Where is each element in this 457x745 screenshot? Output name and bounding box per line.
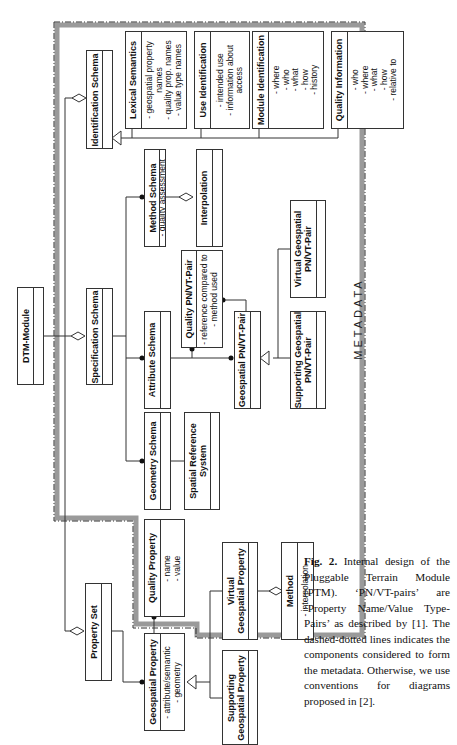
spatial-reference-system-label: Spatial Reference System xyxy=(188,423,208,499)
specification-schema-box: Specification Schema xyxy=(86,288,113,385)
quality-pnvt-pair-box: Quality PN/VT-Pair - reference compared … xyxy=(181,250,223,348)
identification-schema-label: Identification Schema xyxy=(90,53,100,146)
attribute-schema-box: Attribute Schema xyxy=(144,311,171,409)
supporting-geospatial-pnvt-pair-label: Supporting Geospatial PN/VT-Pair xyxy=(294,312,314,408)
method-schema-attrs: - quality assessment xyxy=(160,159,165,236)
metadata-label-text: METADATA xyxy=(352,278,364,359)
lexical-semantics-attrs: - geospatial property names - quality pr… xyxy=(145,40,183,119)
module-identification-attrs: - where - who - what - how - history xyxy=(272,65,320,95)
aggregation-diamond-interp xyxy=(179,193,193,201)
attribute-schema-label: Attribute Schema xyxy=(148,323,158,398)
supporting-geospatial-property-label: Supporting Geospatial Property xyxy=(226,655,246,741)
geospatial-pnvt-pair-label: Geospatial PN/VT-Pair xyxy=(238,313,248,408)
use-identification-box: Use Identification - intended use - info… xyxy=(194,31,250,129)
caption-label: Fig. 2. xyxy=(304,555,337,567)
quality-property-box: Quality Property - name - value xyxy=(144,519,185,617)
quality-property-attrs: - name - value xyxy=(163,555,182,581)
dtm-module-label: DTM-Module xyxy=(21,309,31,363)
quality-information-attrs: - who - where - what - how - relative to xyxy=(352,59,400,101)
method-label: Method xyxy=(285,575,295,607)
virtual-geospatial-property-box: Virtual Geospatial Property xyxy=(222,542,258,640)
caption-text: Internal design of the Pluggable Terrain… xyxy=(304,555,450,707)
spatial-reference-system-box: Spatial Reference System xyxy=(184,412,220,510)
property-set-box: Property Set xyxy=(85,583,112,681)
metadata-label: METADATA xyxy=(352,274,366,364)
aggregation-diamond-propset xyxy=(70,627,84,635)
aggregation-diamond-spec xyxy=(71,332,85,340)
geometry-schema-box: Geometry Schema xyxy=(144,412,171,510)
aggregation-diamond-ident xyxy=(72,94,86,102)
geometry-schema-label: Geometry Schema xyxy=(148,421,158,500)
lexical-semantics-label: Lexical Semantics xyxy=(129,41,139,119)
geospatial-property-attrs: - attribute/semantic - geometry xyxy=(163,646,182,718)
quality-property-label: Quality Property xyxy=(148,533,158,603)
property-set-label: Property Set xyxy=(89,605,99,659)
quality-information-label: Quality Information xyxy=(335,39,345,122)
use-identification-label: Use Identification xyxy=(198,42,208,117)
lexical-semantics-box: Lexical Semantics - geospatial property … xyxy=(125,31,187,129)
virtual-geospatial-property-label: Virtual Geospatial Property xyxy=(226,548,246,634)
generalization-triangle-geoprop xyxy=(187,675,196,689)
specification-schema-label: Specification Schema xyxy=(90,290,100,383)
quality-pnvt-pair-attrs: - reference compared to - method used xyxy=(200,254,219,345)
virtual-geospatial-pnvt-pair-box: Virtual Geospatial PN/VT-Pair xyxy=(290,200,326,298)
identification-schema-box: Identification Schema xyxy=(86,50,113,149)
method-schema-label: Method Schema xyxy=(147,163,157,232)
module-identification-box: Module Identification - where - who - wh… xyxy=(252,31,324,129)
module-identification-label: Module Identification xyxy=(256,35,266,125)
interpolation-box: Interpolation xyxy=(196,149,223,247)
quality-information-box: Quality Information - who - where - what… xyxy=(331,31,404,129)
interpolation-label: Interpolation xyxy=(200,171,210,226)
supporting-geospatial-property-box: Supporting Geospatial Property xyxy=(222,650,258,745)
geospatial-pnvt-pair-box: Geospatial PN/VT-Pair xyxy=(234,311,261,409)
figure-caption: Fig. 2. Internal design of the Pluggable… xyxy=(304,554,450,709)
quality-pnvt-pair-label: Quality PN/VT-Pair xyxy=(184,259,194,338)
generalization-triangle-pnvt xyxy=(260,351,269,365)
virtual-geospatial-pnvt-pair-label: Virtual Geospatial PN/VT-Pair xyxy=(294,211,314,287)
supporting-geospatial-pnvt-pair-box: Supporting Geospatial PN/VT-Pair xyxy=(290,311,326,409)
geospatial-property-label: Geospatial Property xyxy=(148,639,158,725)
dtm-module-box: DTM-Module xyxy=(17,287,44,385)
generalization-triangle-ident xyxy=(112,131,121,145)
geospatial-property-box: Geospatial Property - attribute/semantic… xyxy=(144,633,185,731)
method-schema-box: Method Schema - quality assessment xyxy=(144,149,166,247)
use-identification-attrs: - intended use - information about acces… xyxy=(216,45,245,116)
